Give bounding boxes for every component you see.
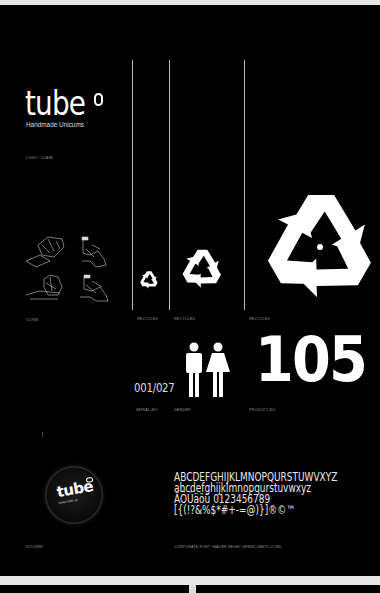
product-caption: Product-No.: [249, 408, 276, 412]
recycle-caption-medium: Recycled: [174, 317, 195, 321]
recycle-icon-small: [139, 270, 159, 290]
gender-caption: Gender: [174, 408, 191, 412]
tv-on-sofa-icon: [26, 237, 64, 267]
font-symbols: [{(!?&%$*#+-=@)}]®©™: [174, 505, 337, 516]
font-specimen: ABCDEFGHIJKLMNOPQURSTUWVXYZ abcdefghijkl…: [174, 472, 337, 516]
dust-speck: [42, 432, 43, 438]
logo-caption: Logo / Claim: [26, 156, 53, 160]
recycle-caption-large: Recycled: [249, 317, 270, 321]
recycle-icon-medium: [180, 247, 224, 291]
font-caption: Corporate Font »Bauer Neue« (www.lineto.…: [174, 545, 281, 549]
column-divider: [132, 60, 133, 310]
man-icon: [186, 343, 202, 398]
sticker-caption: Sticker: [26, 545, 43, 549]
product-number: 105: [255, 329, 366, 391]
column-divider: [244, 60, 245, 310]
bottom-paper-band: [0, 576, 380, 585]
person-reading-icon: [82, 237, 106, 267]
person-at-desk-icon: [80, 275, 108, 301]
serial-number: 001/027: [134, 381, 175, 395]
recycle-caption-small: Recycled: [137, 317, 158, 321]
logo-tagline: Handmade Unicums: [26, 121, 84, 128]
recycle-icon-large: [261, 188, 379, 306]
bottom-left-panel: [0, 585, 189, 593]
sticker-logo: tube www.tube.at: [56, 479, 96, 505]
gender-icons: [180, 342, 232, 398]
person-crouching-icon: [26, 275, 62, 299]
sticker: tube www.tube.at: [45, 466, 103, 524]
icons-caption: Icons: [26, 318, 38, 322]
bottom-divider: [189, 585, 196, 593]
serial-caption: Serial-No.: [136, 408, 158, 412]
icons-illustrations: [20, 215, 120, 305]
logo-ring-icon: [94, 93, 103, 106]
column-divider: [169, 60, 170, 310]
woman-icon: [206, 343, 230, 398]
logo-wordmark: tube: [25, 86, 85, 120]
bottom-right-panel: [196, 585, 380, 593]
